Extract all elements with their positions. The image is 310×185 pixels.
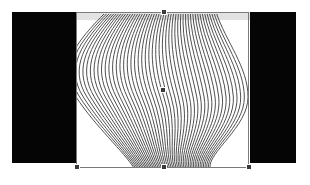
handle-top-center[interactable]	[161, 9, 167, 15]
handle-bottom-left[interactable]	[74, 164, 80, 170]
right-black-panel	[250, 12, 296, 163]
handle-center-point[interactable]	[160, 87, 166, 93]
left-black-panel	[12, 12, 76, 163]
handle-bottom-center[interactable]	[161, 164, 167, 170]
handle-bottom-right[interactable]	[246, 164, 252, 170]
